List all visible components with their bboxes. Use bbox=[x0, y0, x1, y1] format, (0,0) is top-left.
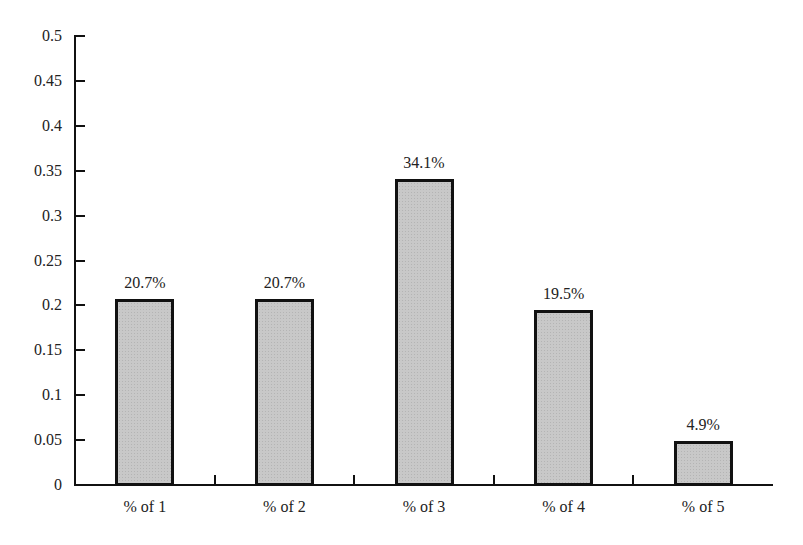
y-tick-label: 0.4 bbox=[2, 118, 62, 134]
y-tick bbox=[75, 35, 85, 37]
y-tick-label: 0.3 bbox=[2, 208, 62, 224]
bar-value-label: 19.5% bbox=[524, 286, 604, 302]
y-tick-label: 0 bbox=[2, 477, 62, 493]
y-tick bbox=[75, 215, 85, 217]
y-tick bbox=[75, 349, 85, 351]
y-tick bbox=[75, 394, 85, 396]
bar-5 bbox=[674, 441, 733, 486]
y-tick bbox=[75, 304, 85, 306]
y-tick-label: 0.05 bbox=[2, 432, 62, 448]
y-tick-label: 0.45 bbox=[2, 73, 62, 89]
x-category-label: % of 1 bbox=[95, 499, 195, 515]
bar-4 bbox=[534, 310, 593, 486]
x-category-label: % of 2 bbox=[234, 499, 334, 515]
y-tick bbox=[75, 125, 85, 127]
bar-value-label: 20.7% bbox=[105, 275, 185, 291]
bar-value-label: 34.1% bbox=[384, 155, 464, 171]
y-tick-label: 0.1 bbox=[2, 387, 62, 403]
bar-3 bbox=[395, 179, 454, 486]
y-tick-label: 0.15 bbox=[2, 342, 62, 358]
x-tick bbox=[353, 475, 355, 485]
bar-value-label: 20.7% bbox=[244, 275, 324, 291]
y-tick bbox=[75, 80, 85, 82]
y-tick bbox=[75, 170, 85, 172]
bar-value-label: 4.9% bbox=[663, 417, 743, 433]
y-tick bbox=[75, 439, 85, 441]
bar-chart: 00.050.10.150.20.250.30.350.40.450.5 20.… bbox=[0, 0, 803, 545]
x-category-label: % of 3 bbox=[374, 499, 474, 515]
x-category-label: % of 5 bbox=[653, 499, 753, 515]
y-tick bbox=[75, 260, 85, 262]
x-tick bbox=[214, 475, 216, 485]
bar-2 bbox=[255, 299, 314, 486]
x-tick bbox=[632, 475, 634, 485]
x-tick bbox=[493, 475, 495, 485]
bar-1 bbox=[115, 299, 174, 486]
y-tick-label: 0.5 bbox=[2, 28, 62, 44]
x-category-label: % of 4 bbox=[514, 499, 614, 515]
y-tick-label: 0.25 bbox=[2, 253, 62, 269]
y-tick bbox=[75, 484, 85, 486]
y-tick-label: 0.2 bbox=[2, 297, 62, 313]
y-tick-label: 0.35 bbox=[2, 163, 62, 179]
